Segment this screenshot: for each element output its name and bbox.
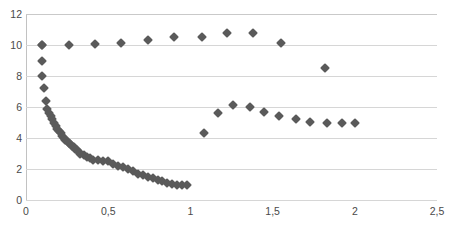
data-point	[37, 56, 47, 66]
data-point	[305, 117, 315, 127]
data-point	[213, 108, 223, 118]
y-tick-label-0: 0	[2, 195, 22, 206]
scatter-chart: 024681012 00,511,522,5	[0, 0, 456, 234]
data-point	[276, 38, 286, 48]
data-point	[199, 128, 209, 138]
data-point	[259, 107, 269, 117]
x-tick-label-0: 0	[23, 206, 29, 217]
data-point	[37, 40, 47, 50]
data-point	[274, 111, 284, 121]
data-point	[248, 28, 258, 38]
x-tick-label-3: 1,5	[265, 206, 280, 217]
data-point	[350, 118, 360, 128]
data-point	[37, 71, 47, 81]
data-point	[143, 35, 153, 45]
data-point	[197, 32, 207, 42]
x-tick-label-5: 2,5	[430, 206, 445, 217]
y-tick-label-12: 12	[2, 9, 22, 20]
data-point	[116, 38, 126, 48]
data-point	[337, 118, 347, 128]
data-point	[39, 83, 49, 93]
y-tick-label-6: 6	[2, 102, 22, 113]
gridline-y-10	[26, 45, 437, 46]
y-tick-label-10: 10	[2, 40, 22, 51]
y-axis-tick-labels: 024681012	[0, 0, 22, 234]
data-point	[222, 28, 232, 38]
gridline-y-2	[26, 169, 437, 170]
data-point	[169, 32, 179, 42]
gridline-y-8	[26, 76, 437, 77]
gridline-y-12	[26, 14, 437, 15]
data-point	[245, 102, 255, 112]
y-tick-label-2: 2	[2, 164, 22, 175]
data-point	[228, 100, 238, 110]
data-point	[322, 118, 332, 128]
y-tick-label-8: 8	[2, 71, 22, 82]
y-tick-label-4: 4	[2, 133, 22, 144]
x-tick-label-2: 1	[187, 206, 193, 217]
plot-area	[26, 14, 437, 200]
x-tick-label-4: 2	[352, 206, 358, 217]
x-tick-label-1: 0,5	[101, 206, 116, 217]
gridline-y-0	[26, 200, 437, 201]
data-point	[64, 40, 74, 50]
data-point	[291, 114, 301, 124]
data-point	[320, 63, 330, 73]
data-point	[90, 39, 100, 49]
gridline-y-4	[26, 138, 437, 139]
